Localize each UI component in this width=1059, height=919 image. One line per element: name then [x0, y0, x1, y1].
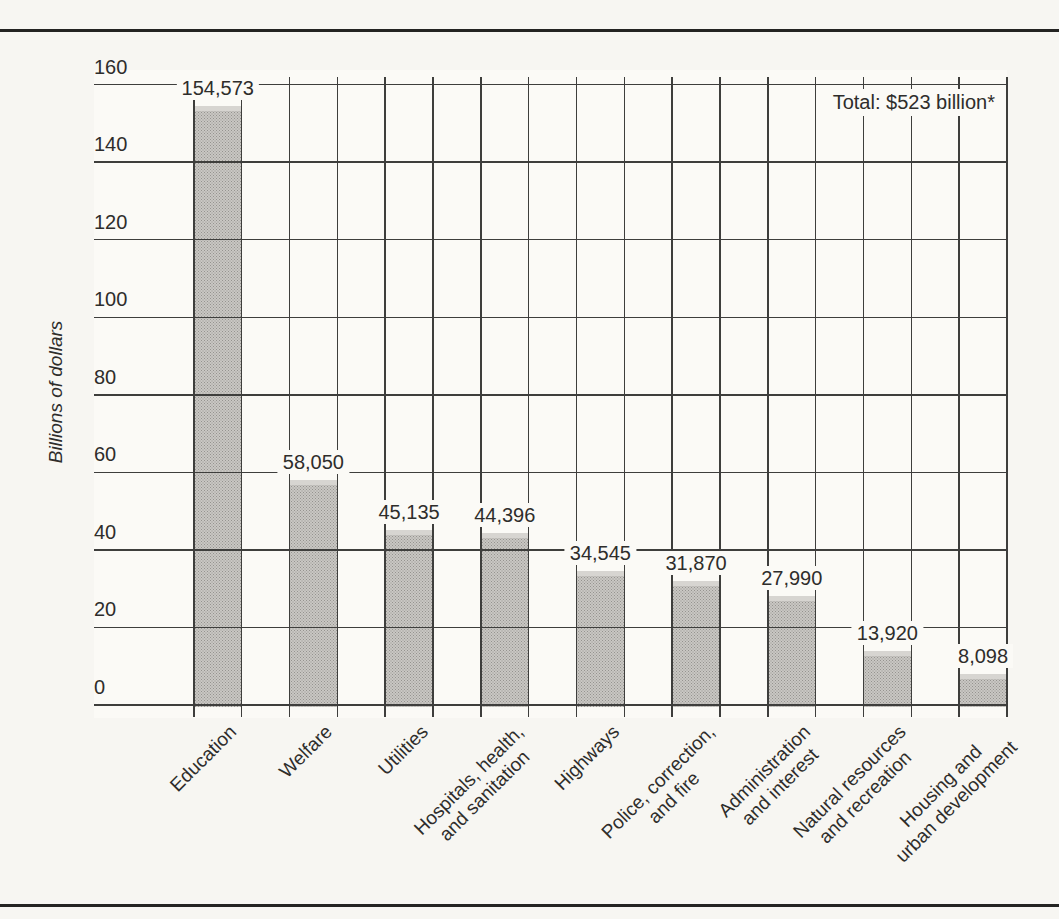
value-label-hospitals-health-and-sanitation: 44,396 — [469, 503, 540, 527]
bar-highways — [577, 571, 625, 707]
value-label-education: 154,573 — [177, 76, 259, 100]
category-label-highways: Highways — [550, 721, 624, 795]
bar-utilities — [385, 530, 433, 707]
category-label-utilities: Utilities — [374, 721, 433, 780]
value-label-police-correction-and-fire: 31,870 — [660, 551, 731, 575]
value-label-highways: 34,545 — [565, 541, 636, 565]
v-gridline-3 — [289, 77, 291, 717]
y-gridline-100 — [94, 317, 1007, 319]
v-gridline-13 — [767, 77, 769, 717]
y-gridline-120 — [94, 239, 1007, 241]
v-gridline-2 — [241, 77, 243, 717]
y-gridline-0 — [94, 704, 1007, 706]
v-gridline-17 — [958, 77, 960, 717]
v-gridline-9 — [576, 77, 578, 717]
v-gridline-8 — [528, 77, 530, 717]
bar-welfare — [290, 480, 338, 707]
y-tick-label-60: 60 — [94, 444, 116, 464]
bar-police-correction-and-fire — [672, 581, 720, 707]
value-label-housing-and-urban-development: 8,098 — [953, 644, 1013, 668]
category-label-education: Education — [166, 721, 241, 796]
figure-canvas: Billions of dollars Total: $523 billion*… — [0, 0, 1059, 919]
y-tick-label-40: 40 — [94, 522, 116, 542]
y-tick-label-0: 0 — [94, 677, 105, 697]
bottom-rule — [0, 904, 1059, 907]
y-tick-label-140: 140 — [94, 134, 127, 154]
value-label-natural-resources-and-recreation: 13,920 — [852, 621, 923, 645]
category-label-welfare: Welfare — [275, 721, 337, 783]
v-gridline-1 — [193, 77, 195, 717]
bar-education — [194, 106, 242, 707]
y-tick-label-100: 100 — [94, 289, 127, 309]
y-tick-label-20: 20 — [94, 599, 116, 619]
value-label-welfare: 58,050 — [278, 450, 349, 474]
y-gridline-40 — [94, 549, 1007, 551]
v-gridline-6 — [432, 77, 434, 717]
y-axis-title: Billions of dollars — [45, 321, 67, 464]
v-gridline-4 — [337, 77, 339, 717]
bar-natural-resources-and-recreation — [864, 651, 912, 707]
v-gridline-7 — [480, 77, 482, 717]
total-annotation: Total: $523 billion* — [827, 89, 1001, 116]
value-label-utilities: 45,135 — [373, 500, 444, 524]
y-tick-label-80: 80 — [94, 367, 116, 387]
value-label-administration-and-interest: 27,990 — [756, 566, 827, 590]
bar-hospitals-health-and-sanitation — [481, 533, 529, 707]
y-gridline-60 — [94, 472, 1007, 474]
bar-administration-and-interest — [768, 596, 816, 707]
y-gridline-80 — [94, 394, 1007, 396]
y-tick-label-160: 160 — [94, 57, 127, 77]
top-rule — [0, 29, 1059, 32]
v-gridline-10 — [624, 77, 626, 717]
y-tick-label-120: 120 — [94, 212, 127, 232]
v-gridline-14 — [815, 77, 817, 717]
v-gridline-11 — [671, 77, 673, 717]
v-gridline-5 — [384, 77, 386, 717]
v-gridline-12 — [719, 77, 721, 717]
bar-housing-and-urban-development — [959, 674, 1007, 707]
y-gridline-140 — [94, 161, 1007, 163]
v-gridline-18 — [1006, 77, 1008, 717]
category-label-hospitals-health-and-sanitation: Hospitals, health, and sanitation — [410, 721, 544, 855]
